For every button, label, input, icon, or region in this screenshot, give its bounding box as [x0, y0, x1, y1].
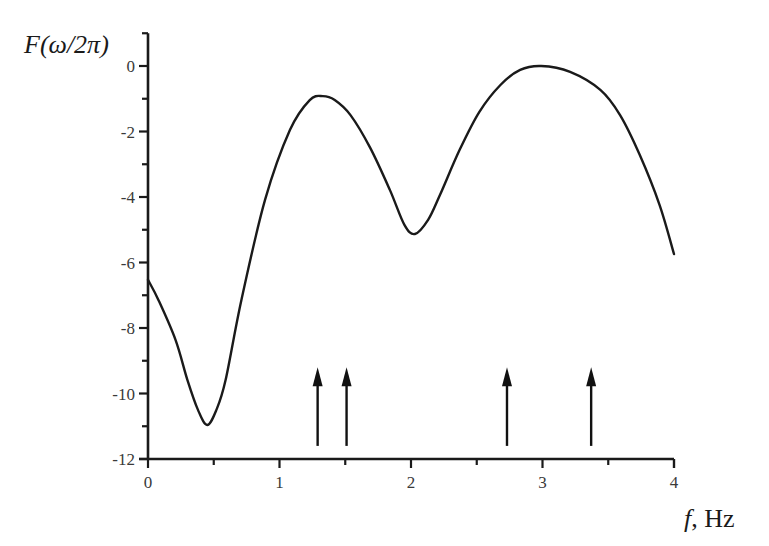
y-tick-label: -2: [121, 123, 135, 142]
up-arrow-icon: [342, 367, 352, 446]
y-tick-label: -6: [121, 254, 135, 273]
arrow-head: [342, 367, 352, 386]
arrow-head: [502, 367, 512, 386]
arrow-head: [586, 367, 596, 386]
y-tick-label: -10: [112, 385, 135, 404]
x-tick-label: 4: [670, 473, 679, 492]
y-axis: 0-2-4-6-8-10-12: [112, 33, 148, 469]
x-tick-label: 1: [275, 473, 284, 492]
up-arrow-icon: [586, 367, 596, 446]
up-arrow-icon: [502, 367, 512, 446]
x-axis-title: f, Hz: [684, 504, 735, 533]
plot-curve: [148, 66, 674, 425]
up-arrow-icon: [313, 367, 323, 446]
x-tick-label: 3: [538, 473, 547, 492]
x-tick-label: 2: [407, 473, 416, 492]
x-tick-label: 0: [144, 473, 153, 492]
x-axis-title-unit: , Hz: [691, 504, 734, 533]
y-tick-label: -4: [121, 188, 136, 207]
y-tick-label: 0: [127, 57, 136, 76]
x-axis: 01234: [139, 459, 679, 492]
data-line: [148, 66, 674, 425]
y-tick-label: -8: [121, 319, 135, 338]
y-tick-label: -12: [112, 450, 135, 469]
arrow-head: [313, 367, 323, 386]
chart: 0-2-4-6-8-10-12 01234 F(ω/2π) f, Hz: [0, 0, 769, 546]
frequency-arrows: [313, 367, 597, 446]
y-axis-title: F(ω/2π): [23, 30, 109, 59]
